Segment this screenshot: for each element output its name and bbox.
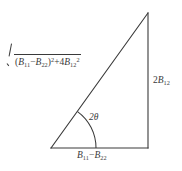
radical-sign-icon (7, 54, 14, 71)
angle-label: 2θ (89, 113, 98, 123)
radicand: (B11−B22)2+4B122 (14, 54, 81, 68)
adjacent-side-label: B11−B22 (77, 151, 107, 161)
opposite-sub: 12 (164, 79, 170, 86)
triangle-figure: (B11−B22)2+4B122 2B12 B11−B22 2θ (0, 0, 182, 171)
triangle-hypotenuse-line (51, 13, 148, 148)
b12-exponent: 2 (77, 56, 80, 63)
opposite-side-label: 2B12 (153, 76, 170, 86)
theta-symbol: θ (94, 112, 99, 122)
adjacent-b22-sub: 22 (100, 154, 106, 161)
hypotenuse-label: (B11−B22)2+4B122 (7, 54, 81, 71)
